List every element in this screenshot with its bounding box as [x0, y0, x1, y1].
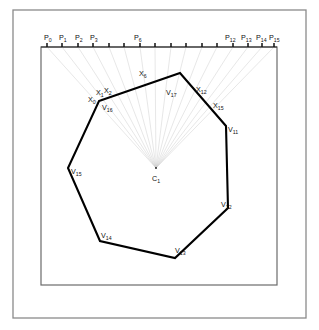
label-p13: P13: [241, 33, 252, 43]
geometry-figure: C1 P0P1P2P3P6P12P13P14P15 V16V17V11V12V1…: [0, 0, 319, 330]
center-point-c1: C1: [152, 167, 160, 184]
label-p1: P1: [59, 33, 67, 43]
ray-p4: [109, 47, 156, 168]
center-dot: [155, 167, 157, 169]
label-p15: P15: [269, 33, 280, 43]
label-x1: X1: [96, 88, 104, 98]
ray-fan: [47, 47, 274, 168]
ray-p9: [156, 47, 186, 168]
label-x15: X15: [213, 101, 224, 111]
intersection-point-labels: X0X1X2X6X12X15: [88, 69, 224, 111]
ray-p8: [156, 47, 171, 168]
ray-p5: [124, 47, 156, 168]
figure-container: C1 P0P1P2P3P6P12P13P14P15 V16V17V11V12V1…: [0, 0, 319, 330]
label-x0: X0: [88, 95, 96, 105]
ray-p2: [78, 47, 156, 168]
label-v12: V12: [221, 200, 232, 210]
ray-p11: [156, 47, 217, 168]
inner-frame: [41, 47, 277, 285]
ray-p7: [155, 47, 156, 168]
label-p14: P14: [256, 33, 267, 43]
label-p2: P2: [75, 33, 83, 43]
label-p3: P3: [90, 33, 98, 43]
label-p6: P6: [134, 33, 142, 43]
label-v15: V15: [71, 167, 82, 177]
label-p0: P0: [44, 33, 52, 43]
ray-p10: [156, 47, 202, 168]
label-v17: V17: [166, 88, 177, 98]
label-x12: X12: [196, 85, 207, 95]
label-x6: X6: [139, 69, 147, 79]
label-p12: P12: [225, 33, 236, 43]
ray-p6: [140, 47, 156, 168]
label-v11: V11: [228, 125, 238, 135]
label-v13: V13: [175, 246, 186, 256]
ray-point-labels: P0P1P2P3P6P12P13P14P15: [44, 33, 280, 43]
ray-p13: [156, 47, 248, 168]
label-v16: V16: [102, 103, 113, 113]
label-v14: V14: [101, 231, 112, 241]
center-label-c1: C1: [152, 174, 160, 184]
label-x2: X2: [104, 86, 112, 96]
